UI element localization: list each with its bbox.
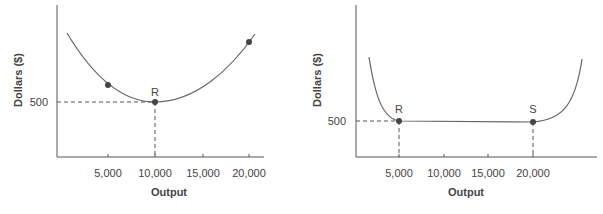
left-y-tick-500: 500 [30, 96, 48, 108]
right-x-tick-label: 5,000 [385, 167, 413, 179]
left-x-tick-label: 5,000 [94, 167, 122, 179]
right-label-s: S [529, 103, 536, 115]
right-chart: R S 500 5,000 10,000 15,000 20,000 Outpu… [311, 5, 597, 198]
left-point-20000 [246, 39, 252, 45]
right-x-tick-label: 20,000 [516, 167, 550, 179]
left-y-axis-label: Dollars ($) [12, 53, 24, 107]
right-label-r: R [395, 103, 403, 115]
left-x-tick-label: 20,000 [232, 167, 266, 179]
right-x-tick-label: 15,000 [471, 167, 505, 179]
left-chart: R 500 5,000 10,000 15,000 20,000 Output … [12, 5, 266, 198]
left-x-tick-label: 10,000 [138, 167, 172, 179]
left-x-tick-label: 15,000 [186, 167, 220, 179]
right-x-axis-label: Output [448, 186, 484, 198]
right-y-axis-label: Dollars ($) [311, 53, 323, 107]
left-point-r [152, 99, 158, 105]
left-cost-curve [67, 33, 255, 102]
left-label-r: R [151, 86, 159, 98]
right-point-s [530, 119, 536, 125]
right-y-tick-500: 500 [328, 115, 346, 127]
left-x-axis-label: Output [151, 186, 187, 198]
right-x-tick-label: 10,000 [427, 167, 461, 179]
left-point-5000 [105, 82, 111, 88]
charts-canvas: R 500 5,000 10,000 15,000 20,000 Output … [0, 0, 603, 214]
right-point-r [396, 118, 402, 124]
